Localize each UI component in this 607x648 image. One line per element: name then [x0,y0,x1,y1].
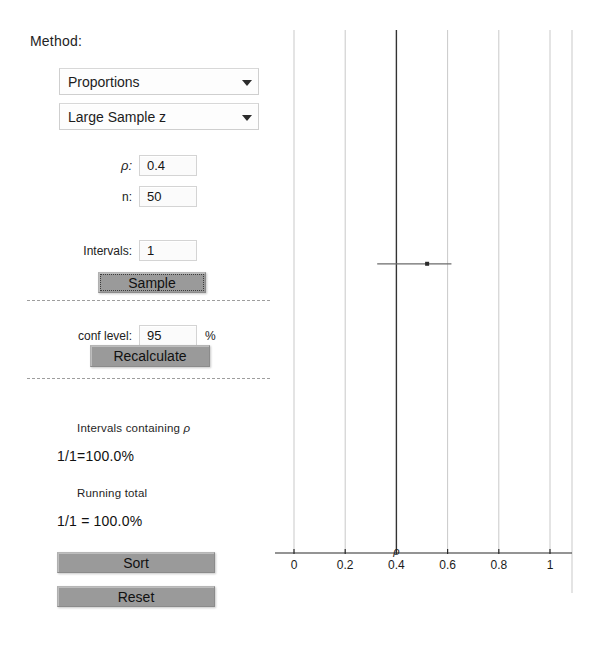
intervals-containing-value: 1/1=100.0% [57,448,134,464]
reset-button[interactable]: Reset [57,586,215,607]
x-axis-tick-label: 0.6 [428,558,468,572]
n-input[interactable]: 50 [139,186,197,207]
method-select[interactable]: Proportions [59,68,259,95]
plot-canvas [275,0,607,648]
intervals-input[interactable]: 1 [139,240,197,261]
procedure-select[interactable]: Large Sample z [59,103,259,130]
p-input[interactable]: 0.4 [139,155,197,176]
conf-level-field-row: conf level: 95 % [57,325,216,346]
sort-button[interactable]: Sort [57,552,215,573]
p-field-row: ρ: 0.4 [90,155,197,176]
confidence-interval-plot: 00.20.40.60.81ρ [275,0,607,648]
x-axis-tick-label: 0.4 [376,558,416,572]
p-field-label: ρ: [90,158,132,173]
method-select-value: Proportions [60,74,240,90]
chevron-down-icon [240,69,258,94]
running-total-label: Running total [77,487,147,499]
n-field-label: n: [90,190,132,204]
x-axis-tick-label: 0 [274,558,314,572]
chevron-down-icon [240,104,258,129]
x-axis-tick-label: 1 [530,558,570,572]
procedure-select-value: Large Sample z [60,109,240,125]
n-field-row: n: 50 [90,186,197,207]
recalculate-button[interactable]: Recalculate [90,345,210,367]
method-label: Method: [30,33,82,49]
intervals-containing-label: Intervals containing ρ [77,422,190,434]
control-panel: Method: Proportions Large Sample z ρ: 0.… [0,0,275,648]
x-axis-tick-label: 0.2 [325,558,365,572]
x-axis-tick-label: 0.8 [479,558,519,572]
panel-divider-2 [27,378,270,379]
rho-symbol: ρ [183,422,190,434]
conf-level-field-label: conf level: [57,329,132,343]
sample-button[interactable]: Sample [98,272,206,293]
intervals-containing-label-text: Intervals containing [77,422,183,434]
panel-divider-1 [27,300,270,301]
conf-level-input[interactable]: 95 [139,325,197,346]
interval-estimate-marker [425,262,429,266]
parameter-axis-annotation: ρ [386,545,406,557]
conf-level-percent-sign: % [205,329,216,343]
intervals-field-label: Intervals: [57,244,132,258]
running-total-value: 1/1 = 100.0% [57,513,142,529]
intervals-field-row: Intervals: 1 [57,240,197,261]
